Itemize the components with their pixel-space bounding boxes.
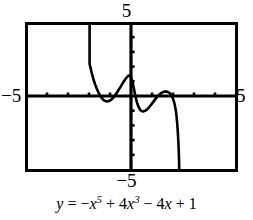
plot-canvas: [25, 22, 238, 172]
equation-equals: =: [67, 195, 76, 212]
term-2-sign: +: [106, 195, 115, 212]
graph-figure: 5 −5 −5 5: [0, 0, 253, 220]
plot-window: [25, 22, 238, 172]
equation-lhs: y: [56, 195, 63, 212]
axis-label-bottom: −5: [0, 171, 253, 190]
axis-label-left: −5: [1, 86, 21, 105]
term-2-exponent: 3: [134, 193, 139, 205]
equation-caption: y=−x5+4x3−4x+1: [0, 195, 253, 213]
term-3-coefficient: 4: [157, 195, 165, 212]
term-2-coefficient: 4: [119, 195, 127, 212]
term-1-exponent: 5: [97, 193, 102, 205]
term-4-sign: +: [176, 195, 185, 212]
term-3-variable: x: [165, 195, 172, 212]
axis-label-top: 5: [0, 1, 253, 20]
term-3-sign: −: [144, 195, 153, 212]
term-4-coefficient: 1: [189, 195, 197, 212]
term-1-variable: x: [89, 195, 96, 212]
